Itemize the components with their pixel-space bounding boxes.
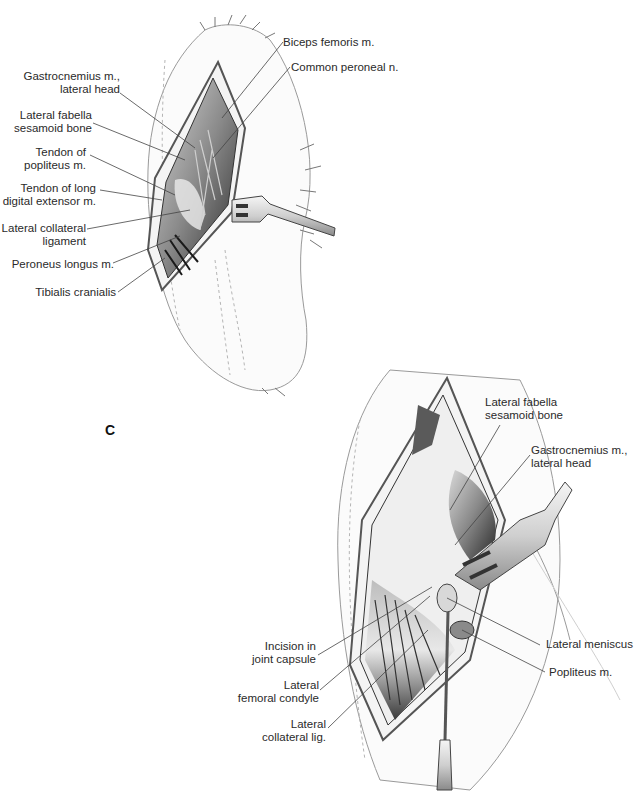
label-line: Lateral fabella: [485, 396, 563, 409]
label-top-tibialis-cranialis: Tibialis cranialis: [4, 286, 116, 299]
label-line: Biceps femoris m.: [283, 36, 374, 49]
label-line: ligament: [0, 235, 86, 248]
label-top-lateral-collateral: Lateral collateral ligament: [0, 222, 86, 248]
label-line: lateral head: [4, 83, 120, 96]
label-line: Lateral: [220, 679, 319, 692]
label-line: Common peroneal n.: [291, 61, 398, 74]
label-line: popliteus m.: [4, 159, 86, 172]
label-line: lateral head: [531, 457, 628, 470]
label-top-common-peroneal: Common peroneal n.: [291, 61, 398, 74]
label-line: Lateral fabella: [4, 109, 92, 122]
label-line: Lateral collateral: [0, 222, 86, 235]
label-line: joint capsule: [230, 653, 316, 666]
label-bottom-lateral-meniscus: Lateral meniscus: [546, 638, 633, 651]
label-line: Tibialis cranialis: [4, 286, 116, 299]
label-line: Lateral: [230, 718, 326, 731]
label-top-peroneus-longus: Peroneus longus m.: [4, 258, 114, 271]
label-line: digital extensor m.: [0, 195, 96, 208]
label-bottom-collateral-lig: Lateral collateral lig.: [230, 718, 326, 744]
label-line: collateral lig.: [230, 731, 326, 744]
label-bottom-femoral-condyle: Lateral femoral condyle: [220, 679, 319, 705]
label-line: Gastrocnemius m.,: [4, 70, 120, 83]
label-line: sesamoid bone: [485, 409, 563, 422]
label-top-gastrocnemius: Gastrocnemius m., lateral head: [4, 70, 120, 96]
label-bottom-incision: Incision in joint capsule: [230, 640, 316, 666]
label-top-tendon-popliteus: Tendon of popliteus m.: [4, 146, 86, 172]
label-top-fabella: Lateral fabella sesamoid bone: [4, 109, 92, 135]
label-line: Peroneus longus m.: [4, 258, 114, 271]
label-top-biceps-femoris: Biceps femoris m.: [283, 36, 374, 49]
label-line: femoral condyle: [220, 692, 319, 705]
label-bottom-popliteus: Popliteus m.: [549, 666, 612, 679]
label-line: Gastrocnemius m.,: [531, 444, 628, 457]
label-line: Tendon of long: [0, 182, 96, 195]
label-line: sesamoid bone: [4, 122, 92, 135]
label-bottom-fabella: Lateral fabella sesamoid bone: [485, 396, 563, 422]
label-line: Tendon of: [4, 146, 86, 159]
label-line: Popliteus m.: [549, 666, 612, 679]
surgical-illustration: Gastrocnemius m., lateral head Lateral f…: [0, 0, 635, 808]
panel-letter: C: [105, 422, 115, 438]
label-line: Incision in: [230, 640, 316, 653]
label-line: Lateral meniscus: [546, 638, 633, 651]
label-bottom-gastrocnemius: Gastrocnemius m., lateral head: [531, 444, 628, 470]
label-top-tendon-long-digital: Tendon of long digital extensor m.: [0, 182, 96, 208]
